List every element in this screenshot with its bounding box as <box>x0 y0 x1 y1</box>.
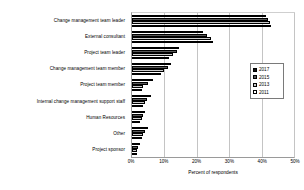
legend-label: 2015 <box>259 75 269 80</box>
category-label: Change management team leader <box>54 18 125 23</box>
gridline <box>294 13 295 157</box>
category-label: Project team member <box>80 82 125 87</box>
bar <box>132 25 271 28</box>
bar <box>132 66 168 69</box>
bar <box>132 41 213 44</box>
bar <box>132 79 153 82</box>
x-tick-label: 0% <box>128 159 135 165</box>
bar <box>132 69 164 72</box>
legend-swatch-icon <box>253 90 257 94</box>
category-label: Project team leader <box>84 50 125 55</box>
legend-item[interactable]: 2015 <box>253 74 281 82</box>
bar <box>132 105 143 108</box>
bar-group <box>132 125 294 141</box>
legend-label: 2017 <box>259 67 269 72</box>
bar <box>132 127 148 130</box>
category-row: External consultant <box>0 28 128 44</box>
bar-group <box>132 13 294 29</box>
bar <box>132 31 203 34</box>
bar <box>132 98 147 101</box>
category-row: Project sponsor <box>0 142 128 158</box>
bar <box>132 117 142 120</box>
bar <box>132 111 145 114</box>
category-row: Change management team leader <box>0 12 128 28</box>
x-tick-label: 10% <box>159 159 168 165</box>
bar <box>132 149 137 152</box>
bar <box>132 53 173 56</box>
legend-label: 2013 <box>259 82 269 87</box>
x-tick-label: 50% <box>290 159 299 165</box>
bar <box>132 63 171 66</box>
bar <box>132 95 151 98</box>
bar-group <box>132 45 294 61</box>
bar <box>132 121 140 124</box>
bar <box>132 85 143 88</box>
category-label: Change management team member <box>50 66 125 71</box>
bar-group <box>132 29 294 45</box>
bar <box>132 47 179 50</box>
legend-label: 2011 <box>259 90 269 95</box>
bar-chart: Change management team leaderExternal co… <box>0 0 304 190</box>
category-label: Internal change management support staff <box>37 99 125 104</box>
legend-item[interactable]: 2017 <box>253 66 281 74</box>
category-axis-labels: Change management team leaderExternal co… <box>0 12 128 158</box>
bar <box>132 73 161 76</box>
category-row: Project team member <box>0 77 128 93</box>
x-tick-label: 40% <box>258 159 267 165</box>
bar <box>132 82 148 85</box>
legend-swatch-icon <box>253 75 257 79</box>
category-label: Human Resources <box>86 115 125 120</box>
x-axis-ticks: 0%10%20%30%40%50% <box>131 159 295 168</box>
bar <box>132 137 142 140</box>
category-row: Project team leader <box>0 44 128 60</box>
legend-item[interactable]: 2011 <box>253 89 281 97</box>
legend-item[interactable]: 2013 <box>253 81 281 89</box>
x-tick-label: 20% <box>192 159 201 165</box>
bar <box>132 37 211 40</box>
legend: 2017201520132011 <box>250 63 284 99</box>
category-label: Other <box>113 131 125 136</box>
bar <box>132 101 145 104</box>
bar <box>132 21 270 24</box>
legend-swatch-icon <box>253 83 257 87</box>
category-row: Internal change management support staff <box>0 93 128 109</box>
bar <box>132 57 169 60</box>
category-label: Project sponsor <box>92 147 125 152</box>
bar <box>132 114 143 117</box>
bar <box>132 146 138 149</box>
category-row: Human Resources <box>0 109 128 125</box>
bar <box>132 133 143 136</box>
bar <box>132 15 266 18</box>
x-tick-label: 30% <box>225 159 234 165</box>
x-axis-title: Percent of respondents <box>131 170 295 175</box>
bar <box>132 130 145 133</box>
bar <box>132 153 137 156</box>
bar <box>132 34 207 37</box>
bar-group <box>132 141 294 157</box>
bar <box>132 18 268 21</box>
legend-swatch-icon <box>253 68 257 72</box>
bar <box>132 50 177 53</box>
bar <box>132 143 140 146</box>
category-label: External consultant <box>85 34 125 39</box>
category-row: Change management team member <box>0 61 128 77</box>
bar-group <box>132 109 294 125</box>
bar <box>132 89 142 92</box>
category-row: Other <box>0 126 128 142</box>
